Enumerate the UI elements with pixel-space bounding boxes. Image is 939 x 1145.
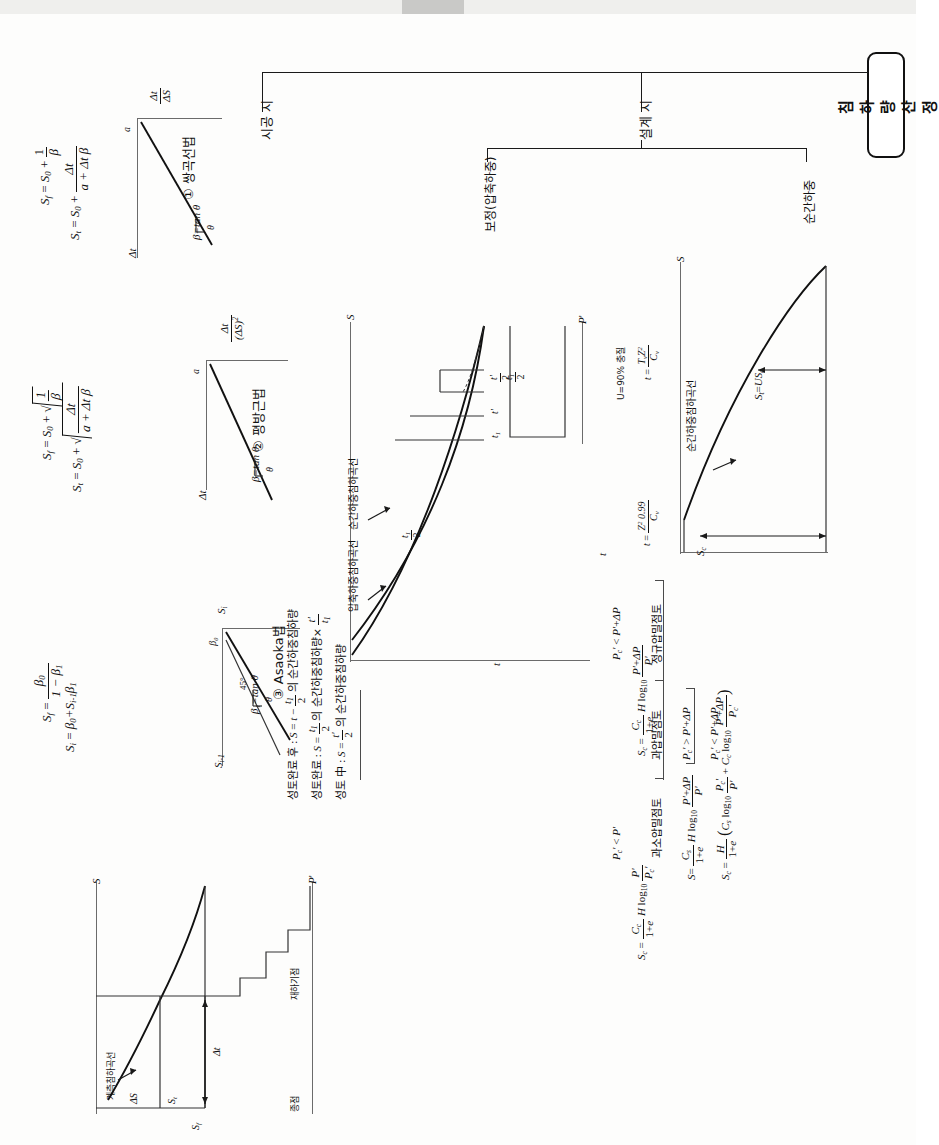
construction-measure-dS: ΔS (128, 1093, 139, 1104)
construction-label-settlement-curve: 계측침하곡선 (104, 1052, 117, 1100)
construction-measure-St: St (166, 1097, 178, 1104)
construction-label-end: 종점 (288, 1096, 301, 1112)
construction-measure-Sf: Sf (190, 1123, 202, 1130)
construction-measure-dt: Δt (211, 1047, 222, 1056)
construction-label-load-increment: 재하기점 (288, 968, 301, 1000)
